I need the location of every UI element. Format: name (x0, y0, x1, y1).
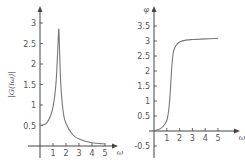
y-tick-label: -0.5 (134, 142, 150, 151)
x-tick-label: 4 (89, 149, 94, 158)
y-axis-label: |G(iω)| (7, 71, 16, 98)
y-tick-label: 2 (145, 67, 150, 76)
y-tick-label: 2.5 (23, 40, 36, 49)
x-tick-label: 3 (76, 149, 81, 158)
y-tick-label: 3 (145, 37, 150, 46)
x-axis-label: ω (117, 148, 124, 157)
x-tick-label: 5 (102, 149, 107, 158)
y-axis-arrow-icon (152, 6, 157, 12)
phase-plot: 12345-0.50.511.522.533.5ωφ (134, 5, 245, 158)
y-tick-label: 1 (31, 101, 36, 110)
y-axis-arrow-icon (38, 6, 43, 12)
x-tick-label: 2 (63, 149, 68, 158)
x-tick-label: 5 (215, 134, 220, 143)
y-tick-label: 3 (31, 19, 36, 28)
y-tick-label: 0.5 (23, 122, 36, 131)
y-tick-label: 1.5 (137, 82, 150, 91)
x-tick-label: 4 (203, 134, 208, 143)
y-tick-label: 3.5 (137, 22, 150, 31)
y-tick-label: 2 (31, 60, 36, 69)
data-curve (40, 29, 105, 144)
chart-canvas: 123450.511.522.53ω|G(iω)|12345-0.50.511.… (0, 0, 245, 167)
x-axis-label: ω (239, 133, 245, 142)
x-tick-label: 2 (177, 134, 182, 143)
y-tick-label: 2.5 (137, 52, 150, 61)
x-tick-label: 3 (190, 134, 195, 143)
x-tick-label: 1 (50, 149, 55, 158)
y-tick-label: 0.5 (137, 112, 150, 121)
data-curve (154, 38, 218, 131)
x-tick-label: 1 (164, 134, 169, 143)
y-tick-label: 1.5 (23, 81, 36, 90)
magnitude-plot: 123450.511.522.53ω|G(iω)| (7, 6, 124, 158)
y-tick-label: 1 (145, 97, 150, 106)
y-axis-label: φ (143, 5, 149, 14)
